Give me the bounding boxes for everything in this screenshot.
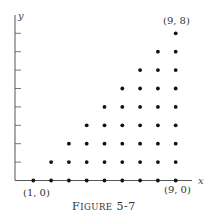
lattice-point [156,123,160,127]
annotation-bottom-right: (9, 0) [164,184,191,195]
lattice-point [156,68,160,72]
lattice-point [120,179,124,183]
lattice-point [138,105,142,109]
lattice-point [67,142,71,146]
lattice-point [156,105,160,109]
lattice-point [31,179,35,183]
lattice-point [103,105,107,109]
figure-5-7-diagram: y x (9, 8) (1, 0) (9, 0) FIGURE5-7 [0,0,213,215]
lattice-point [49,160,53,164]
lattice-point [103,142,107,146]
lattice-point [103,160,107,164]
lattice-point [120,105,124,109]
lattice-point [174,123,178,127]
lattice-point [49,179,53,183]
lattice-point [174,68,178,72]
lattice-point [103,179,107,183]
lattice-point [156,142,160,146]
lattice-point [174,31,178,35]
lattice-point [138,123,142,127]
lattice-point [156,160,160,164]
lattice-point [120,87,124,91]
lattice-point [156,87,160,91]
lattice-point [174,87,178,91]
lattice-point [67,160,71,164]
annotation-bottom-left: (1, 0) [23,187,50,198]
y-axis-ticks [15,33,21,162]
lattice-point [120,123,124,127]
lattice-point [138,142,142,146]
lattice-point [85,123,89,127]
lattice-point [138,87,142,91]
lattice-point [85,160,89,164]
lattice-point [156,50,160,54]
lattice-point [103,123,107,127]
x-axis-label: x [198,175,204,186]
lattice-point [174,50,178,54]
lattice-points [31,31,177,182]
lattice-point [138,160,142,164]
lattice-point [174,160,178,164]
lattice-point [85,179,89,183]
lattice-point [67,179,71,183]
figure-caption: FIGURE5-7 [72,200,136,213]
caption-number: 5-7 [117,200,136,213]
lattice-point [120,160,124,164]
lattice-point [138,68,142,72]
caption-smallcaps: IGURE [80,202,112,212]
lattice-point [156,179,160,183]
lattice-point [174,142,178,146]
caption-initial: F [72,200,80,213]
y-axis-label: y [17,10,24,21]
lattice-point [120,142,124,146]
lattice-point [174,179,178,183]
lattice-point [85,142,89,146]
lattice-point [138,179,142,183]
lattice-point [174,105,178,109]
annotation-top-right: (9, 8) [163,15,190,26]
